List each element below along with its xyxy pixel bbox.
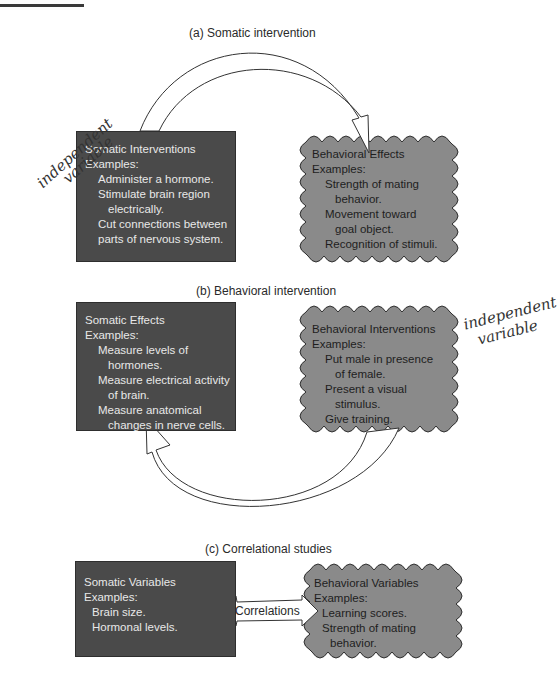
example-line: Hormonal levels. bbox=[84, 620, 225, 635]
examples-label: Examples: bbox=[85, 157, 225, 172]
example-line: hormones. bbox=[85, 358, 225, 373]
somatic-variables-box: Somatic Variables Examples: Brain size. … bbox=[75, 561, 236, 657]
example-line: changes in nerve cells. bbox=[85, 418, 225, 433]
example-line: Present a visual bbox=[312, 382, 435, 397]
caption-correlational-studies: (c) Correlational studies bbox=[205, 542, 332, 556]
example-line: Learning scores. bbox=[314, 606, 419, 621]
box-title: Somatic Effects bbox=[85, 313, 225, 328]
behavioral-variables-box: Behavioral Variables Examples: Learning … bbox=[314, 576, 419, 651]
example-line: Brain size. bbox=[84, 605, 225, 620]
example-line: stimulus. bbox=[312, 397, 435, 412]
examples-label: Examples: bbox=[314, 591, 419, 606]
example-line: Movement toward bbox=[312, 207, 438, 222]
example-line: behavior. bbox=[312, 192, 438, 207]
examples-label: Examples: bbox=[312, 162, 438, 177]
box-title: Somatic Variables bbox=[84, 575, 225, 590]
box-title: Behavioral Interventions bbox=[312, 322, 435, 337]
caption-behavioral-intervention: (b) Behavioral intervention bbox=[196, 284, 336, 298]
caption-somatic-intervention: (a) Somatic intervention bbox=[189, 26, 316, 40]
correlations-label: Correlations bbox=[235, 604, 300, 618]
examples-label: Examples: bbox=[312, 337, 435, 352]
example-line: behavior. bbox=[314, 636, 419, 651]
behavioral-effects-box: Behavioral Effects Examples: Strength of… bbox=[312, 147, 438, 252]
example-line: Give training. bbox=[312, 412, 435, 427]
examples-label: Examples: bbox=[84, 590, 225, 605]
example-line: Measure levels of bbox=[85, 343, 225, 358]
example-line: Cut connections between bbox=[85, 217, 225, 232]
behavioral-interventions-box: Behavioral Interventions Examples: Put m… bbox=[312, 322, 435, 427]
box-title: Behavioral Effects bbox=[312, 147, 438, 162]
example-line: of brain. bbox=[85, 388, 225, 403]
example-line: Administer a hormone. bbox=[85, 172, 225, 187]
example-line: Recognition of stimuli. bbox=[312, 237, 438, 252]
example-line: Stimulate brain region bbox=[85, 187, 225, 202]
example-line: Strength of mating bbox=[314, 621, 419, 636]
example-line: of female. bbox=[312, 367, 435, 382]
box-title: Behavioral Variables bbox=[314, 576, 419, 591]
example-line: parts of nervous system. bbox=[85, 232, 225, 247]
somatic-effects-box: Somatic Effects Examples: Measure levels… bbox=[76, 302, 236, 431]
example-line: electrically. bbox=[85, 202, 225, 217]
example-line: Measure electrical activity bbox=[85, 373, 225, 388]
example-line: Strength of mating bbox=[312, 177, 438, 192]
example-line: goal object. bbox=[312, 222, 438, 237]
example-line: Put male in presence bbox=[312, 352, 435, 367]
example-line: Measure anatomical bbox=[85, 403, 225, 418]
examples-label: Examples: bbox=[85, 328, 225, 343]
